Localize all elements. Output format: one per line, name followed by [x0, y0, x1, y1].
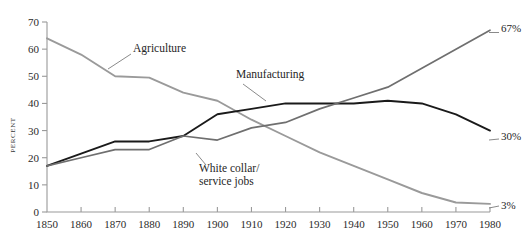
series-annotation-1: Manufacturing	[236, 68, 305, 81]
series-lines	[47, 30, 490, 204]
series-annotation-0: Agriculture	[133, 42, 186, 55]
leader-line-0	[108, 54, 131, 69]
leader-line-1	[243, 84, 266, 101]
x-tick-label: 1880	[138, 218, 161, 230]
y-tick-label: 0	[34, 206, 40, 218]
end-value-label-0: 67%	[501, 22, 521, 34]
x-tick-label: 1870	[104, 218, 127, 230]
series-line-white-collar-service-jobs	[47, 30, 490, 166]
x-tick-label: 1850	[36, 218, 59, 230]
y-tick-label: 40	[28, 97, 40, 109]
x-tick-label: 1970	[445, 218, 468, 230]
x-tick-label: 1890	[172, 218, 195, 230]
end-value-labels: 67%30%3%	[501, 22, 521, 211]
x-tick-label: 1910	[240, 218, 263, 230]
employment-share-line-chart: 010203040506070 185018601870188018901900…	[0, 0, 528, 247]
series-annotation-2: White collar/	[199, 162, 260, 174]
series-annotation-3: service jobs	[199, 175, 254, 188]
y-tick-label: 10	[28, 179, 40, 191]
end-value-label-2: 3%	[501, 199, 516, 211]
x-tick-label: 1900	[206, 218, 229, 230]
y-tick-label: 20	[28, 152, 40, 164]
y-tick-label: 60	[28, 43, 40, 55]
x-tick-label: 1980	[479, 218, 502, 230]
x-tick-label: 1860	[70, 218, 93, 230]
y-tick-label: 50	[28, 70, 40, 82]
y-axis-title: PERCENT	[9, 117, 17, 152]
axis-lines	[47, 22, 490, 212]
x-tick-label: 1960	[411, 218, 434, 230]
axes	[47, 22, 490, 212]
end-value-label-1: 30%	[501, 130, 521, 142]
x-tick-label: 1950	[377, 218, 400, 230]
y-tick-label: 30	[28, 125, 40, 137]
x-tick-label: 1920	[275, 218, 298, 230]
x-tick-label: 1940	[343, 218, 366, 230]
y-tick-label: 70	[28, 16, 40, 28]
y-axis-ticks: 010203040506070	[28, 16, 47, 218]
chart-canvas: 010203040506070 185018601870188018901900…	[0, 0, 528, 247]
x-tick-label: 1930	[309, 218, 332, 230]
series-line-agriculture	[47, 38, 490, 204]
annotation-leader-lines	[108, 33, 499, 209]
end-leader-1	[489, 139, 499, 140]
series-line-manufacturing	[47, 101, 490, 166]
x-axis-ticks: 1850186018701880189019001910192019301940…	[36, 207, 502, 230]
